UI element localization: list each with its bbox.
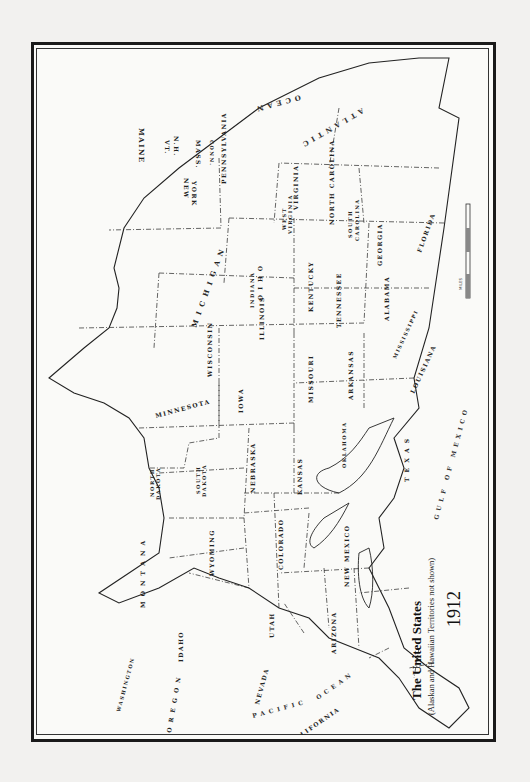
atlantic-ocean-label-2: OCEAN	[252, 93, 302, 114]
scale-bar: MILES	[458, 204, 470, 298]
atlantic-ocean-label: ATLANTIC	[298, 106, 367, 151]
pacific-ocean-label-2: OCEAN	[315, 669, 356, 700]
scale-bar-label: MILES	[458, 278, 463, 290]
gulf-of-mexico-label: GULF OF MEXICO	[432, 405, 469, 520]
map-subtitle: (Alaskan and Hawaiian Territories not sh…	[426, 558, 436, 715]
pacific-ocean-label: PACIFIC	[251, 698, 307, 719]
map-title: The United States	[409, 601, 424, 700]
ocean-labels: ATLANTIC OCEAN GULF OF MEXICO PACIFIC OC…	[0, 0, 530, 782]
map-year: 1912	[444, 591, 464, 627]
